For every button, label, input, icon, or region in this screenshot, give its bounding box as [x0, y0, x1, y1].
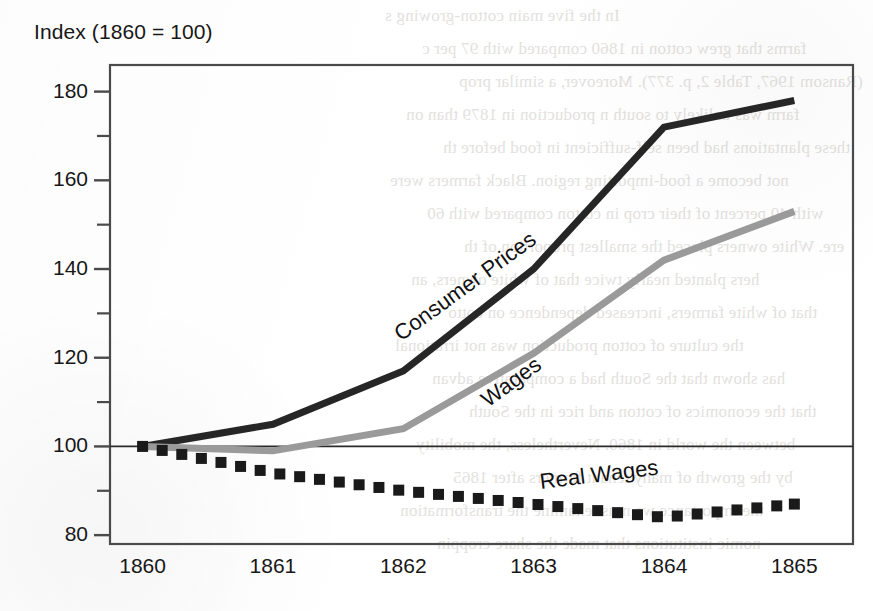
- x-tick-label: 1863: [474, 554, 594, 578]
- y-tick-label: 180: [10, 79, 88, 103]
- series-group: [137, 100, 800, 522]
- x-tick-label: 1860: [83, 554, 203, 578]
- y-tick-label: 120: [10, 345, 88, 369]
- x-tick-label: 1861: [213, 554, 333, 578]
- chart-figure: Index (1860 = 100) 80100120140160180 186…: [0, 0, 873, 611]
- axes-group: [94, 65, 853, 544]
- y-tick-label: 160: [10, 167, 88, 191]
- x-tick-label: 1864: [604, 554, 724, 578]
- y-tick-label: 100: [10, 433, 88, 457]
- y-tick-label: 140: [10, 256, 88, 280]
- y-tick-label: 80: [10, 522, 88, 546]
- x-tick-label: 1862: [343, 554, 463, 578]
- x-tick-label: 1865: [734, 554, 854, 578]
